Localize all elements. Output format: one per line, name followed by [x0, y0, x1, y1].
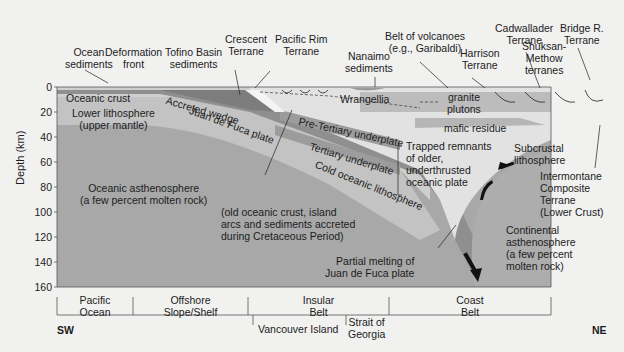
label-continental-asthenosphere: Continental asthenosphere (a few percent… — [506, 224, 575, 272]
label-mafic-residue: mafic residue — [444, 122, 506, 134]
subregion-strait-of-georgia: Strait of Georgia — [348, 316, 385, 340]
label-harrison-terrane: Harrison Terrane — [460, 47, 500, 71]
label-pacific-rim-terrane: Pacific Rim Terrane — [275, 33, 328, 57]
label-deformation-front: Deformation front — [105, 46, 162, 70]
y-tick: 160 — [28, 281, 52, 293]
label-trapped-remnants: Trapped remnants of older, underthrusted… — [406, 140, 491, 188]
y-axis-label: Depth (km) — [14, 131, 26, 185]
label-lower-lithosphere: Lower lithosphere (upper mantle) — [72, 107, 155, 131]
direction-ne: NE — [592, 324, 607, 336]
region-offshore-slope-shelf: Offshore Slope/Shelf — [133, 294, 248, 318]
y-tick: 20 — [28, 106, 52, 118]
region-insular-belt: Insular Belt — [248, 294, 389, 318]
label-bridge-r-terrane: Bridge R. Terrane — [560, 22, 604, 46]
y-tick: 40 — [28, 131, 52, 143]
label-tofino-basin: Tofino Basin sediments — [165, 46, 222, 70]
subregion-vancouver-island: Vancouver Island — [258, 323, 338, 335]
label-crescent-terrane: Crescent Terrane — [225, 33, 267, 57]
label-granite-plutons: granite plutons — [447, 91, 481, 115]
region-pacific-ocean: Pacific Ocean — [57, 294, 133, 318]
label-old-oceanic-crust: (old oceanic crust, island arcs and sedi… — [221, 206, 355, 242]
label-wrangellia: Wrangellia — [340, 93, 389, 105]
label-oceanic-crust: Oceanic crust — [66, 92, 130, 104]
y-tick: 60 — [28, 156, 52, 168]
y-tick: 0 — [28, 81, 52, 93]
region-coast-belt: Coast Belt — [389, 294, 551, 318]
direction-sw: SW — [57, 324, 74, 336]
label-intermontane-terrane: Intermontane Composite Terrane (Lower Cr… — [540, 170, 604, 218]
y-tick: 100 — [28, 206, 52, 218]
label-partial-melting: Partial melting of Juan de Fuca plate — [325, 255, 414, 279]
y-tick: 120 — [28, 231, 52, 243]
label-oceanic-asthenosphere: Oceanic asthenosphere (a few percent mol… — [80, 182, 207, 206]
y-tick: 140 — [28, 256, 52, 268]
label-belt-of-volcanoes: Belt of volcanoes (e.g., Garibaldi) — [385, 30, 465, 54]
label-subcrustal-lithosphere: Subcrustal lithosphere — [514, 142, 565, 166]
y-tick: 80 — [28, 181, 52, 193]
